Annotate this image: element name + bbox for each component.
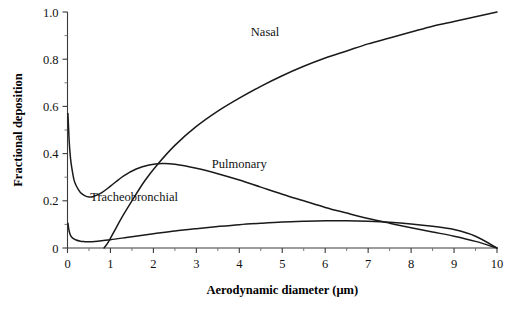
x-tick-label: 9 bbox=[451, 257, 457, 271]
x-tick-label: 1 bbox=[107, 257, 113, 271]
x-tick-label: 8 bbox=[408, 257, 414, 271]
y-axis-title: Fractional deposition bbox=[11, 73, 25, 187]
x-tick-label: 6 bbox=[322, 257, 328, 271]
x-tick-label: 5 bbox=[279, 257, 285, 271]
curve-pulmonary bbox=[68, 113, 497, 248]
y-tick-label: 0.8 bbox=[43, 53, 59, 67]
x-tick-label: 2 bbox=[150, 257, 156, 271]
series-label-pulmonary: Pulmonary bbox=[212, 157, 268, 171]
deposition-curve-chart: 00.20.40.60.81.0 012345678910 NasalPulmo… bbox=[0, 0, 517, 309]
curve-tracheobronchial bbox=[68, 221, 497, 248]
x-axis-title: Aerodynamic diameter (μm) bbox=[206, 283, 358, 297]
x-tick-label: 3 bbox=[193, 257, 199, 271]
x-tick-label: 0 bbox=[64, 257, 70, 271]
x-tick-label: 4 bbox=[236, 257, 243, 271]
series-label-tracheobronchial: Tracheobronchial bbox=[90, 190, 178, 204]
x-axis-tick-labels: 012345678910 bbox=[64, 257, 503, 271]
y-tick-label: 1.0 bbox=[43, 6, 59, 20]
y-tick-label: 0.4 bbox=[43, 147, 59, 161]
curve-nasal bbox=[104, 12, 497, 248]
x-tick-label: 10 bbox=[491, 257, 504, 271]
x-axis-ticks bbox=[68, 248, 498, 253]
series-label-nasal: Nasal bbox=[251, 25, 280, 39]
chart-figure: 00.20.40.60.81.0 012345678910 NasalPulmo… bbox=[0, 0, 517, 309]
axes-group bbox=[63, 12, 498, 253]
y-axis-tick-labels: 00.20.40.60.81.0 bbox=[43, 6, 59, 256]
y-tick-label: 0 bbox=[52, 242, 58, 256]
series-annotations: NasalPulmonaryTracheobronchial bbox=[90, 25, 280, 204]
y-tick-label: 0.6 bbox=[43, 100, 59, 114]
x-tick-label: 7 bbox=[365, 257, 371, 271]
y-axis-ticks bbox=[63, 12, 68, 248]
series-curves bbox=[68, 12, 497, 248]
y-tick-label: 0.2 bbox=[43, 194, 59, 208]
